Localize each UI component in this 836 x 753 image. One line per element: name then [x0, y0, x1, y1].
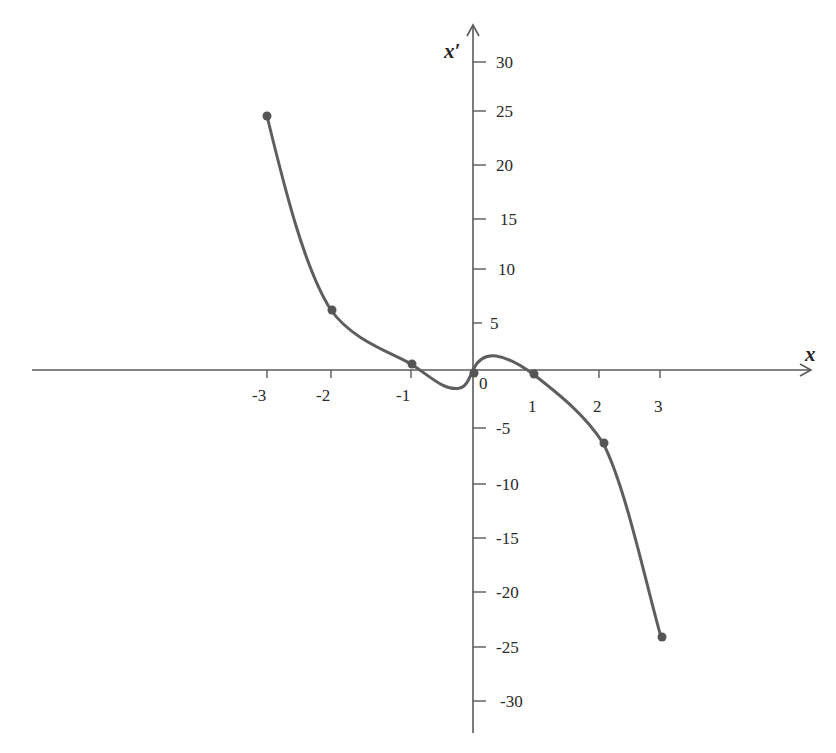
data-point	[530, 370, 539, 379]
y-tick-label: -10	[496, 475, 519, 494]
chart: x x′ -3 -2 -1 0 1 2 3 30 25 20 15	[0, 0, 836, 753]
y-tick-label: 5	[490, 314, 499, 333]
y-tick-label: 30	[496, 53, 513, 72]
y-tick-label: 25	[496, 102, 513, 121]
data-point	[408, 360, 417, 369]
x-ticks	[267, 370, 660, 378]
data-curve	[267, 116, 661, 637]
y-tick-label: -15	[496, 529, 519, 548]
data-point	[470, 369, 479, 378]
data-point	[658, 633, 667, 642]
y-tick-label: -25	[496, 638, 519, 657]
y-axis-title: x′	[443, 39, 460, 63]
x-tick-label: 1	[528, 397, 537, 416]
y-tick-label: -5	[496, 419, 510, 438]
x-tick-label: -1	[396, 386, 410, 405]
x-tick-label: -3	[252, 386, 266, 405]
x-tick-label: -2	[316, 386, 330, 405]
y-tick-label: -30	[500, 692, 523, 711]
x-axis-title: x	[804, 342, 816, 366]
y-tick-label: 10	[498, 260, 515, 279]
data-point	[328, 306, 337, 315]
data-points	[263, 112, 667, 642]
x-tick-label: 2	[593, 397, 602, 416]
y-tick-labels: 30 25 20 15 10 5 -5 -10 -15 -20 -25 -30	[490, 53, 523, 711]
x-tick-label: 3	[654, 397, 663, 416]
y-tick-label: -20	[496, 583, 519, 602]
data-point	[600, 439, 609, 448]
y-tick-label: 20	[496, 156, 513, 175]
x-tick-labels: -3 -2 -1 0 1 2 3	[252, 374, 663, 416]
y-tick-label: 15	[500, 210, 517, 229]
data-point	[263, 112, 272, 121]
x-tick-label: 0	[479, 374, 488, 393]
